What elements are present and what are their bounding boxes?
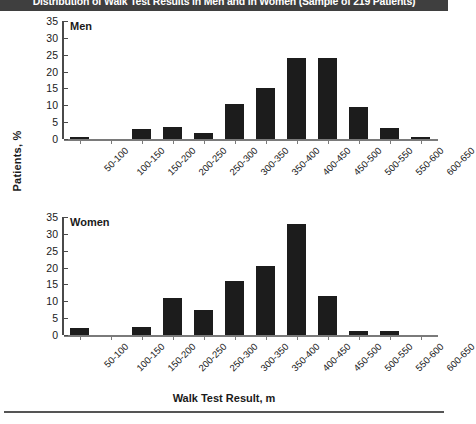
bar — [287, 224, 306, 335]
y-tick — [64, 55, 68, 56]
x-tick — [142, 140, 143, 144]
y-tick — [64, 72, 68, 73]
bar — [163, 298, 182, 335]
y-tick — [64, 105, 68, 106]
x-axis-labels-men: 50-100100-150150-200200-250250-300300-35… — [64, 145, 438, 193]
x-tick-label: 450-500 — [351, 341, 383, 373]
x-tick-label: 500-550 — [382, 341, 414, 373]
x-tick-label: 350-400 — [289, 145, 321, 177]
x-tick-label: 50-100 — [101, 341, 130, 370]
bar — [318, 58, 337, 139]
x-tick — [173, 336, 174, 340]
x-tick — [235, 336, 236, 340]
x-tick — [173, 140, 174, 144]
chart-panel-men: Men 50-100100-150150-200200-250250-30030… — [20, 16, 444, 186]
x-tick — [421, 336, 422, 340]
y-tick-label: 15 — [30, 279, 58, 289]
y-tick-label: 20 — [30, 263, 58, 273]
x-axis-line-men — [64, 139, 438, 141]
x-tick-label: 50-100 — [101, 145, 130, 174]
figure-title: Distribution of Walk Test Results in Men… — [0, 0, 448, 7]
y-tick — [64, 335, 68, 336]
x-tick — [142, 336, 143, 340]
x-axis-title: Walk Test Result, m — [0, 392, 448, 404]
plot-area-men — [64, 21, 436, 139]
x-tick-label: 200-250 — [196, 341, 228, 373]
y-tick-label: 10 — [30, 296, 58, 306]
bar — [163, 127, 182, 139]
x-tick — [421, 140, 422, 144]
x-tick-label: 500-550 — [382, 145, 414, 177]
x-tick-label: 400-450 — [320, 341, 352, 373]
x-tick-label: 300-350 — [258, 145, 290, 177]
y-tick — [64, 38, 68, 39]
y-tick-label: 35 — [30, 212, 58, 222]
y-tick — [64, 301, 68, 302]
bar — [287, 58, 306, 139]
y-tick-label: 0 — [30, 134, 58, 144]
bar — [194, 310, 213, 335]
bar — [70, 328, 89, 335]
x-tick — [111, 140, 112, 144]
x-tick — [328, 140, 329, 144]
x-tick — [359, 140, 360, 144]
x-tick — [204, 140, 205, 144]
y-tick-label: 5 — [30, 117, 58, 127]
x-tick-label: 150-200 — [165, 145, 197, 177]
y-tick — [64, 234, 68, 235]
x-tick-label: 450-500 — [351, 145, 383, 177]
x-tick — [328, 336, 329, 340]
x-tick-label: 100-150 — [134, 145, 166, 177]
x-tick-label: 200-250 — [196, 145, 228, 177]
x-tick-label: 550-600 — [413, 341, 445, 373]
x-tick-label: 250-300 — [227, 341, 259, 373]
y-tick-label: 10 — [30, 100, 58, 110]
x-axis-labels-women: 50-100100-150150-200200-250250-300300-35… — [64, 341, 438, 389]
x-tick — [266, 140, 267, 144]
x-tick — [80, 336, 81, 340]
y-tick — [64, 139, 68, 140]
x-tick-label: 600-650 — [444, 145, 476, 177]
x-tick-label: 150-200 — [165, 341, 197, 373]
bar — [225, 104, 244, 139]
bar — [349, 107, 368, 139]
bar — [380, 128, 399, 139]
y-tick — [64, 88, 68, 89]
x-tick — [359, 336, 360, 340]
x-tick-label: 550-600 — [413, 145, 445, 177]
y-tick — [64, 21, 68, 22]
bar — [132, 327, 151, 335]
y-tick-label: 30 — [30, 33, 58, 43]
y-tick-label: 5 — [30, 313, 58, 323]
bar — [318, 296, 337, 335]
x-tick — [390, 140, 391, 144]
y-tick-label: 30 — [30, 229, 58, 239]
x-tick-label: 250-300 — [227, 145, 259, 177]
y-tick — [64, 318, 68, 319]
x-tick — [80, 140, 81, 144]
y-tick — [64, 217, 68, 218]
y-tick-label: 35 — [30, 16, 58, 26]
y-tick-label: 0 — [30, 330, 58, 340]
y-tick — [64, 284, 68, 285]
x-tick-label: 600-650 — [444, 341, 476, 373]
y-tick — [64, 251, 68, 252]
y-tick-label: 25 — [30, 246, 58, 256]
x-tick — [390, 336, 391, 340]
x-tick — [111, 336, 112, 340]
y-tick-label: 25 — [30, 50, 58, 60]
x-tick — [297, 140, 298, 144]
bar — [256, 266, 275, 335]
x-tick-label: 350-400 — [289, 341, 321, 373]
x-tick-label: 300-350 — [258, 341, 290, 373]
x-tick-label: 100-150 — [134, 341, 166, 373]
y-tick-label: 15 — [30, 83, 58, 93]
y-tick — [64, 268, 68, 269]
x-tick — [235, 140, 236, 144]
plot-area-women — [64, 217, 436, 335]
bar — [256, 88, 275, 139]
x-tick-label: 400-450 — [320, 145, 352, 177]
y-tick-label: 20 — [30, 67, 58, 77]
figure-title-bar: Distribution of Walk Test Results in Men… — [0, 0, 448, 11]
x-tick — [204, 336, 205, 340]
